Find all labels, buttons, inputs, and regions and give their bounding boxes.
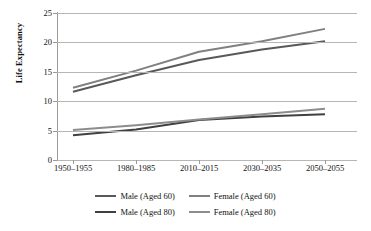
y-tick-mark [53, 101, 57, 102]
legend-entry[interactable]: Male (Aged 60) [95, 192, 174, 201]
legend-swatch-line-icon [189, 211, 210, 213]
y-axis-title: Life Expectancy [14, 0, 24, 108]
series-line [73, 109, 325, 130]
series-lines [57, 13, 357, 160]
y-axis-tick-labels: 2520151050 [26, 0, 52, 175]
legend-swatch-line-icon [95, 195, 116, 197]
gridline [57, 131, 357, 132]
gridline [57, 42, 357, 43]
y-tick-label: 5 [30, 127, 52, 136]
x-tick-mark [199, 160, 200, 164]
series-line [73, 29, 325, 88]
chart-legend: Male (Aged 60)Female (Aged 60)Male (Aged… [0, 188, 371, 220]
legend-entry[interactable]: Male (Aged 80) [95, 208, 174, 217]
gridline [57, 101, 357, 102]
legend-swatch-line-icon [189, 195, 210, 197]
y-tick-label: 20 [30, 38, 52, 47]
x-tick-mark [325, 160, 326, 164]
x-tick-label: 2050–2055 [288, 164, 362, 173]
gridline [57, 72, 357, 73]
legend-label: Female (Aged 80) [214, 208, 276, 217]
x-axis-tick-labels: 1950–19551980–19852010–20152030–20352050… [57, 164, 357, 180]
gridline [57, 13, 357, 14]
series-line [73, 41, 325, 92]
legend-entry[interactable]: Female (Aged 60) [189, 192, 276, 201]
legend-label: Male (Aged 80) [120, 208, 174, 217]
y-tick-label: 25 [30, 9, 52, 18]
legend-row: Male (Aged 60)Female (Aged 60) [0, 188, 371, 204]
series-line [73, 114, 325, 135]
legend-label: Female (Aged 60) [214, 192, 276, 201]
legend-swatch-line-icon [95, 211, 116, 213]
plot-area [57, 13, 357, 160]
y-tick-mark [53, 160, 57, 161]
legend-row: Male (Aged 80)Female (Aged 80) [0, 204, 371, 220]
y-tick-label: 10 [30, 97, 52, 106]
x-tick-mark [262, 160, 263, 164]
legend-entry[interactable]: Female (Aged 80) [189, 208, 276, 217]
x-tick-mark [136, 160, 137, 164]
y-tick-mark [53, 131, 57, 132]
legend-label: Male (Aged 60) [120, 192, 174, 201]
y-tick-mark [53, 72, 57, 73]
x-tick-mark [73, 160, 74, 164]
y-tick-label: 15 [30, 68, 52, 77]
gridline [57, 160, 357, 161]
y-tick-mark [53, 13, 57, 14]
y-tick-mark [53, 42, 57, 43]
life-expectancy-line-chart: Life Expectancy 2520151050 1950–19551980… [0, 0, 371, 231]
